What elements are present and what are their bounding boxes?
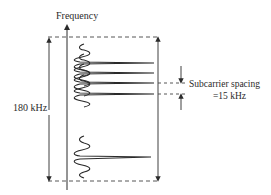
subcarrier-pulses-upper: [74, 44, 154, 107]
subcarrier-spacing-value: =15 kHz: [213, 91, 246, 101]
subcarrier-pulse-lower: [74, 136, 151, 178]
ofdm-subcarrier-diagram: Frequency 180 kHz Subcarrier spacing =15…: [0, 0, 271, 195]
subcarrier-spacing-indicator: [158, 66, 186, 110]
frequency-axis-label: Frequency: [56, 10, 98, 21]
resource-block-boundary: [48, 37, 160, 181]
subcarrier-spacing-label: Subcarrier spacing: [189, 79, 260, 89]
bandwidth-label: 180 kHz: [13, 102, 48, 113]
